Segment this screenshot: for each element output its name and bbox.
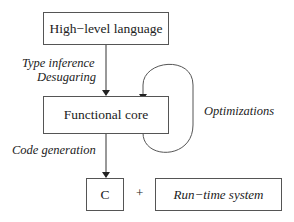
node-label: Functional core bbox=[64, 107, 148, 123]
node-high-level-language: High−level language bbox=[43, 12, 169, 45]
plus-sign: + bbox=[136, 185, 143, 201]
node-label: C bbox=[100, 187, 109, 203]
label-optimizations: Optimizations bbox=[204, 104, 274, 118]
label-code-generation: Code generation bbox=[12, 143, 96, 157]
node-runtime-system: Run−time system bbox=[155, 178, 282, 211]
node-label: High−level language bbox=[50, 21, 163, 37]
node-c: C bbox=[86, 178, 124, 211]
node-functional-core: Functional core bbox=[43, 96, 169, 134]
label-desugaring: Desugaring bbox=[37, 70, 96, 84]
node-label: Run−time system bbox=[173, 187, 263, 203]
label-type-inference: Type inference bbox=[22, 56, 95, 70]
